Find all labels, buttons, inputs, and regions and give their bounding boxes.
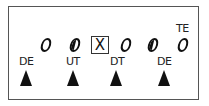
center-x: X <box>95 36 105 54</box>
te-label: TE <box>176 22 189 35</box>
defender-triangle-icon-2 <box>67 70 79 86</box>
defense-label-de-left: DE <box>19 55 33 68</box>
defender-triangle-icon-3 <box>110 70 122 86</box>
center-box: X <box>91 36 109 54</box>
defense-label-ut: UT <box>66 55 80 68</box>
defense-label-de-right: DE <box>157 55 171 68</box>
defender-triangle-icon-1 <box>20 70 32 86</box>
defense-label-dt: DT <box>110 55 124 68</box>
defender-triangle-icon-4 <box>158 70 170 86</box>
